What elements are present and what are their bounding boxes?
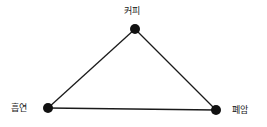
node-lung-cancer bbox=[211, 105, 221, 115]
edge-smoking-lung-cancer bbox=[48, 108, 216, 110]
edge-coffee-lung-cancer bbox=[135, 29, 216, 110]
diagram-canvas bbox=[0, 0, 267, 127]
label-smoking: 흡연 bbox=[11, 104, 27, 113]
label-coffee: 커피 bbox=[124, 7, 140, 16]
edge-smoking-coffee bbox=[48, 29, 135, 108]
node-smoking bbox=[43, 103, 53, 113]
node-coffee bbox=[130, 24, 140, 34]
label-lung-cancer: 폐암 bbox=[232, 106, 248, 115]
